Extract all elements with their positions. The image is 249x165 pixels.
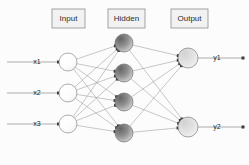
neuron-node-h1 bbox=[115, 34, 133, 52]
signal-label-y1: y1 bbox=[213, 54, 221, 62]
connection-edge bbox=[77, 64, 115, 72]
connection-edge bbox=[76, 76, 115, 90]
signal-label-x3: x3 bbox=[33, 120, 41, 127]
arrowhead-icon bbox=[242, 126, 245, 129]
neuron-node-h3 bbox=[115, 93, 133, 111]
neuron-node-y1 bbox=[178, 48, 198, 68]
connection-edge bbox=[75, 79, 118, 118]
connection-edge bbox=[75, 67, 116, 97]
neuron-node-h4 bbox=[115, 124, 133, 142]
arrowhead-icon bbox=[242, 57, 245, 60]
edges-input-to-hidden bbox=[73, 44, 120, 133]
connection-edge bbox=[77, 46, 116, 59]
neuron-node-y2 bbox=[178, 117, 198, 137]
neural-network-diagram: InputHiddenOutput x1x2x3y1y2 bbox=[0, 0, 249, 165]
connection-edge bbox=[76, 105, 115, 120]
edges-hidden-to-output bbox=[129, 45, 183, 132]
signal-label-x1: x1 bbox=[33, 58, 41, 65]
connection-edge bbox=[133, 128, 178, 132]
connection-edge bbox=[129, 50, 181, 119]
layer-label-boxes: InputHiddenOutput bbox=[52, 9, 208, 28]
neuron-node-h2 bbox=[115, 64, 133, 82]
connection-edge bbox=[75, 49, 118, 87]
connection-edge bbox=[77, 125, 115, 131]
neuron-node-x1 bbox=[59, 53, 77, 71]
connection-edge bbox=[77, 94, 115, 100]
network-canvas: InputHiddenOutput x1x2x3y1y2 bbox=[0, 0, 249, 165]
connection-edge bbox=[132, 105, 178, 123]
layer-label-text-input: Input bbox=[60, 14, 79, 23]
connection-edge bbox=[130, 66, 182, 127]
layer-label-text-hidden: Hidden bbox=[114, 14, 139, 23]
connection-edge bbox=[131, 64, 179, 97]
neuron-node-x3 bbox=[59, 115, 77, 133]
signal-label-y2: y2 bbox=[213, 123, 221, 131]
connection-edge bbox=[133, 45, 179, 56]
signal-label-x2: x2 bbox=[33, 89, 41, 96]
layer-label-text-output: Output bbox=[177, 14, 202, 23]
neuron-node-x2 bbox=[59, 84, 77, 102]
